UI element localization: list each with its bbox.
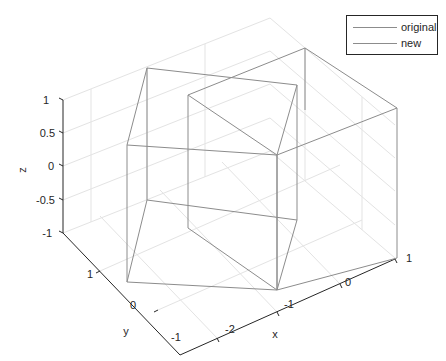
- x-tick-label: 1: [406, 252, 412, 264]
- x-tick-label: -1: [284, 298, 294, 310]
- z-tick-label: -0.5: [36, 194, 55, 206]
- legend-label: new: [401, 37, 421, 49]
- x-tick-label: -2: [225, 323, 235, 335]
- legend-line-icon: [353, 43, 397, 44]
- y-tick-label: 1: [87, 268, 93, 280]
- y-axis: [63, 233, 180, 355]
- legend-item-original: original: [353, 20, 436, 34]
- legend-label: original: [401, 21, 436, 33]
- z-axis-label: z: [16, 167, 28, 173]
- x-tick-label: 0: [345, 276, 351, 288]
- legend-line-icon: [353, 27, 397, 28]
- y-axis-label: y: [123, 325, 129, 337]
- series-new: [127, 68, 297, 290]
- legend-item-new: new: [353, 36, 421, 50]
- z-tick-label: 1: [43, 94, 49, 106]
- z-tick-label: -1: [42, 227, 52, 239]
- z-tick-label: 0.5: [40, 127, 55, 139]
- legend: original new: [346, 15, 438, 55]
- y-tick-label: 0: [130, 299, 136, 311]
- grid: [63, 18, 395, 338]
- z-tick-label: 0: [48, 160, 54, 172]
- x-axis-label: x: [272, 328, 278, 340]
- y-tick-label: -1: [171, 331, 181, 343]
